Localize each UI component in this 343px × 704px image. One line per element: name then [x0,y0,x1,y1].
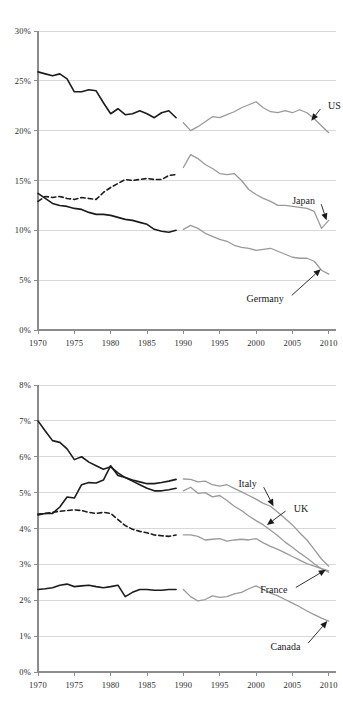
y-tick-label: 4% [19,524,31,534]
x-tick-label: 1970 [29,680,47,690]
series-line-projection [183,487,328,572]
x-tick-label: 2005 [283,338,301,348]
annotation-arrow-head [318,570,326,576]
annotation-leader-line [321,204,324,213]
x-tick-label: 1975 [65,338,83,348]
x-tick-label: 2000 [247,680,265,690]
x-tick-label: 2000 [247,338,265,348]
y-tick-label: 20% [15,126,31,136]
series-line-historical [38,421,176,491]
series-line-historical [38,510,176,537]
y-tick-label: 1% [19,631,31,641]
series-line-historical [38,193,176,232]
series-label-france: France [260,584,288,595]
x-tick-label: 2005 [283,680,301,690]
series-line-historical [38,72,176,118]
figure-container: 0%5%10%15%20%25%30%197019751980198519901… [0,0,343,704]
series-label-japan: Japan [292,195,315,206]
annotation-leader-line [292,274,316,296]
annotation-arrow-head [267,518,274,525]
y-tick-label: 3% [19,559,31,569]
series-japan [38,155,329,229]
y-tick-label: 2% [19,595,31,605]
series-line-projection [183,586,328,621]
series-uk [38,421,329,572]
chart-panel-bottom: 0%1%2%3%4%5%6%7%8%1970197519801985199019… [0,360,343,704]
annotation-leader-line [316,109,321,115]
x-tick-label: 1985 [138,680,156,690]
x-tick-label: 2010 [320,680,338,690]
chart-panel-top: 0%5%10%15%20%25%30%197019751980198519901… [0,0,343,360]
annotation-arrow-head [321,213,327,221]
y-tick-label: 0% [19,667,31,677]
series-label-uk: UK [294,503,309,514]
x-tick-label: 1995 [211,680,229,690]
y-tick-label: 10% [15,225,31,235]
series-italy [38,466,329,566]
series-annotation-france: France [260,570,326,595]
series-annotation-germany: Germany [247,269,321,303]
y-tick-label: 5% [19,488,31,498]
series-line-historical [38,584,176,597]
x-tick-label: 1990 [174,338,192,348]
y-tick-label: 8% [19,380,31,390]
series-annotation-us: US [311,100,340,120]
y-tick-label: 5% [19,275,31,285]
line-chart-bottom: 0%1%2%3%4%5%6%7%8%1970197519801985199019… [0,360,343,704]
x-tick-label: 1970 [29,338,47,348]
annotation-leader-line [296,573,320,587]
series-label-germany: Germany [247,293,284,304]
series-line-projection [183,102,328,133]
x-tick-label: 1975 [65,680,83,690]
y-tick-label: 6% [19,452,31,462]
y-tick-label: 0% [19,325,31,335]
x-tick-label: 1985 [138,338,156,348]
series-line-projection [183,155,328,229]
series-label-canada: Canada [270,641,301,652]
line-chart-top: 0%5%10%15%20%25%30%197019751980198519901… [0,0,343,360]
x-tick-label: 1980 [102,338,120,348]
y-tick-label: 25% [15,76,31,86]
x-tick-label: 1980 [102,680,120,690]
series-label-italy: Italy [239,478,257,489]
annotation-leader-line [308,626,323,643]
series-label-us: US [328,100,341,111]
x-tick-label: 2010 [320,338,338,348]
y-tick-label: 15% [15,176,31,186]
annotation-leader-line [264,487,271,500]
series-line-projection [183,225,328,274]
series-line-historical [38,175,176,202]
y-tick-label: 30% [15,26,31,36]
x-tick-label: 1995 [211,338,229,348]
y-tick-label: 7% [19,416,31,426]
x-tick-label: 1990 [174,680,192,690]
